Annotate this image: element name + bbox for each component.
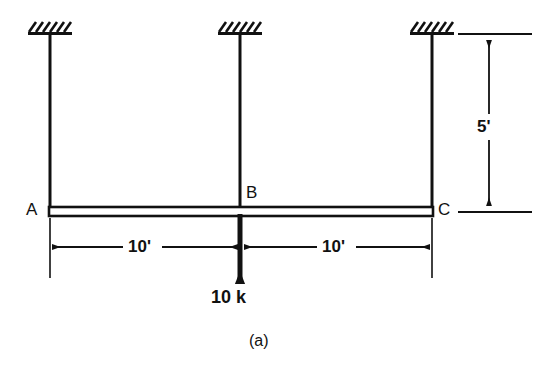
dimension-label-span-right: 10'	[322, 238, 345, 255]
joint-label-c: C	[438, 201, 450, 218]
dimension-height	[458, 34, 532, 212]
fixed-support-left	[28, 22, 72, 34]
structural-diagram-figure: A B C 10' 10' 5' 10 k (a)	[0, 0, 539, 368]
fixed-support-center	[218, 22, 262, 34]
dimension-label-span-left: 10'	[128, 238, 151, 255]
fixed-support-right	[410, 22, 454, 34]
dimension-label-height: 5'	[477, 118, 491, 135]
frame-diagram-svg	[0, 0, 539, 368]
figure-caption: (a)	[249, 333, 269, 349]
joint-label-a: A	[26, 201, 37, 218]
joint-label-b: B	[246, 184, 257, 201]
load-magnitude-label: 10 k	[211, 288, 246, 306]
